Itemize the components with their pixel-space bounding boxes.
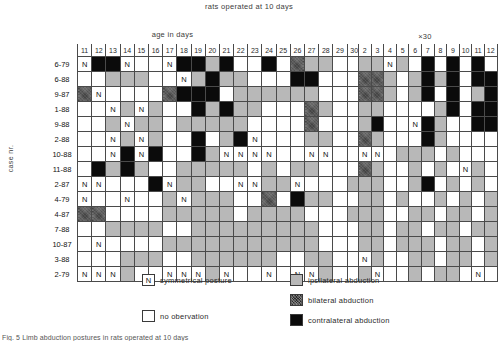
heatmap-cell <box>484 192 497 207</box>
heatmap-cell <box>484 147 497 162</box>
heatmap-cell <box>177 177 191 192</box>
legend-label-contralateral: contralateral abduction <box>308 316 390 325</box>
heatmap-cell <box>384 132 397 147</box>
heatmap-cell <box>234 87 248 102</box>
heatmap-cell: N <box>384 57 397 72</box>
heatmap-cell <box>177 57 191 72</box>
heatmap-cell <box>106 72 120 87</box>
heatmap-cell <box>459 222 472 237</box>
heatmap-cell <box>290 237 304 252</box>
heatmap-cell <box>396 252 409 267</box>
legend-item-bilateral: bilateral abduction <box>290 294 374 306</box>
heatmap-cell: N <box>248 177 262 192</box>
heatmap-cell <box>333 192 347 207</box>
heatmap-cell <box>106 222 120 237</box>
heatmap-cell <box>148 87 162 102</box>
heatmap-cell <box>384 222 397 237</box>
heatmap-cell: N <box>177 192 191 207</box>
heatmap-cell <box>421 207 434 222</box>
heatmap-cell <box>447 147 460 162</box>
heatmap-cell: N <box>234 147 248 162</box>
row-header-9-88: 9-88 <box>50 117 78 132</box>
heatmap-cell <box>359 237 372 252</box>
heatmap-cell <box>319 162 333 177</box>
heatmap-cell: N <box>78 177 92 192</box>
table-row: 1-88NN <box>50 102 375 117</box>
heatmap-cell: N <box>359 252 372 267</box>
column-header-20: 20 <box>205 44 219 57</box>
heatmap-cell <box>120 102 134 117</box>
heatmap-cell <box>191 237 205 252</box>
heatmap-cell <box>106 162 120 177</box>
heatmap-cell <box>177 132 191 147</box>
legend-swatch-contralateral <box>290 314 303 326</box>
grid-corner <box>50 44 78 57</box>
heatmap-cell <box>396 57 409 72</box>
heatmap-cell <box>305 162 319 177</box>
heatmap-cell: N <box>106 147 120 162</box>
heatmap-cell <box>177 252 191 267</box>
heatmap-cell: N <box>248 132 262 147</box>
heatmap-cell <box>92 117 106 132</box>
heatmap-cell <box>276 132 290 147</box>
x-axis-label-left: age in days <box>0 30 345 39</box>
heatmap-cell <box>205 252 219 267</box>
legend-item-no-observation: no obervation <box>142 310 209 322</box>
heatmap-cell <box>459 192 472 207</box>
table-row: N <box>359 57 498 72</box>
heatmap-cell <box>290 117 304 132</box>
heatmap-cell <box>447 192 460 207</box>
heatmap-cell <box>163 147 177 162</box>
column-header-11: 11 <box>78 44 92 57</box>
heatmap-cell: N <box>409 117 422 132</box>
heatmap-cell <box>333 237 347 252</box>
column-header-19: 19 <box>191 44 205 57</box>
figure-root: rats operated at 10 days age in days ×30… <box>0 0 498 344</box>
heatmap-cell <box>262 222 276 237</box>
heatmap-cell: N <box>163 57 177 72</box>
heatmap-cell <box>396 132 409 147</box>
heatmap-cell <box>484 162 497 177</box>
heatmap-cell <box>409 252 422 267</box>
heatmap-cell <box>290 222 304 237</box>
heatmap-cell <box>333 132 347 147</box>
heatmap-cell <box>78 162 92 177</box>
heatmap-cell <box>276 87 290 102</box>
heatmap-cell <box>421 132 434 147</box>
row-header-4-79: 4-79 <box>50 192 78 207</box>
heatmap-cell <box>371 117 384 132</box>
heatmap-cell <box>134 192 148 207</box>
heatmap-cell <box>333 117 347 132</box>
heatmap-cell <box>234 237 248 252</box>
heatmap-cell <box>191 57 205 72</box>
heatmap-cell <box>219 72 233 87</box>
heatmap-cell <box>434 87 447 102</box>
heatmap-cell <box>92 72 106 87</box>
heatmap-cell <box>333 147 347 162</box>
heatmap-cell <box>120 132 134 147</box>
heatmap-cell <box>78 132 92 147</box>
heatmap-cell <box>459 87 472 102</box>
table-row: N <box>359 252 498 267</box>
heatmap-cell <box>472 237 485 252</box>
heatmap-cell <box>384 177 397 192</box>
heatmap-cell <box>92 132 106 147</box>
heatmap-cell <box>305 72 319 87</box>
heatmap-cell <box>219 177 233 192</box>
heatmap-cell <box>163 117 177 132</box>
heatmap-cell <box>248 207 262 222</box>
table-row <box>359 237 498 252</box>
heatmap-cell <box>396 177 409 192</box>
heatmap-cell <box>319 102 333 117</box>
row-header-3-88: 3-88 <box>50 252 78 267</box>
heatmap-cell <box>106 87 120 102</box>
heatmap-cell: N <box>305 147 319 162</box>
heatmap-cell <box>219 102 233 117</box>
heatmap-cell: N <box>106 102 120 117</box>
heatmap-cell <box>148 57 162 72</box>
heatmap-cell <box>459 72 472 87</box>
heatmap-cell <box>219 57 233 72</box>
heatmap-cell <box>359 222 372 237</box>
heatmap-cell <box>92 252 106 267</box>
heatmap-cell <box>472 177 485 192</box>
